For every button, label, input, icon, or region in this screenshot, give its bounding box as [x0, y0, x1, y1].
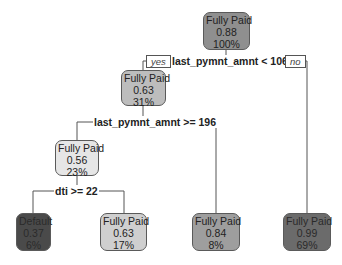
tree-node-4: Fully Paid 0.56 23% [55, 140, 99, 176]
tree-leaf-fully-paid-084: Fully Paid 0.84 8% [192, 213, 240, 251]
split-label-node4: dti >= 22 [54, 185, 99, 197]
node-class: Fully Paid [124, 72, 163, 84]
node-prob: 0.99 [286, 227, 328, 239]
split-label-node2: last_pymnt_amnt >= 196 [93, 116, 217, 128]
tree-node-root: Fully Paid 0.88 100% [203, 12, 250, 50]
node-pct: 23% [58, 166, 96, 178]
node-prob: 0.56 [58, 154, 96, 166]
node-prob: 0.63 [103, 227, 144, 239]
node-prob: 0.88 [206, 26, 247, 38]
node-pct: 6% [19, 239, 48, 251]
branch-yes-label: yes [146, 55, 171, 68]
node-pct: 31% [124, 96, 163, 108]
node-prob: 0.63 [124, 84, 163, 96]
node-class: Fully Paid [286, 215, 328, 227]
node-class: Fully Paid [58, 142, 96, 154]
tree-leaf-default: Default 0.37 6% [16, 213, 51, 251]
node-class: Fully Paid [103, 215, 144, 227]
branch-no-label: no [285, 55, 306, 68]
node-pct: 17% [103, 239, 144, 251]
node-pct: 8% [195, 239, 237, 251]
split-label-root: last_pymnt_amnt < 1060 [171, 55, 295, 67]
node-pct: 100% [206, 38, 247, 50]
tree-leaf-fully-paid-099: Fully Paid 0.99 69% [283, 213, 331, 251]
node-prob: 0.84 [195, 227, 237, 239]
node-pct: 69% [286, 239, 328, 251]
node-class: Fully Paid [206, 14, 247, 26]
tree-node-2: Fully Paid 0.63 31% [121, 70, 166, 106]
node-prob: 0.37 [19, 227, 48, 239]
tree-leaf-fully-paid-063: Fully Paid 0.63 17% [100, 213, 147, 251]
node-class: Fully Paid [195, 215, 237, 227]
node-class: Default [19, 215, 48, 227]
